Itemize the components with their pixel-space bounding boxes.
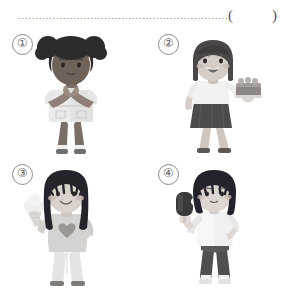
answer-bracket[interactable]: ( )	[227, 7, 279, 24]
option-4[interactable]: ④	[146, 158, 293, 292]
figure-girl-holding-ice-cream-cone	[0, 158, 146, 292]
options-grid: ①	[0, 28, 293, 292]
question-row: ........................................…	[0, 0, 293, 30]
figure-girl-afro-puffs-holding-ice-cream	[0, 28, 146, 158]
figure-girl-holding-cake	[146, 28, 293, 158]
option-1[interactable]: ①	[0, 28, 146, 158]
option-3[interactable]: ③	[0, 158, 146, 292]
answer-dotted-line: ........................................…	[18, 8, 227, 22]
option-2[interactable]: ②	[146, 28, 293, 158]
figure-girl-holding-popsicle	[146, 158, 293, 292]
